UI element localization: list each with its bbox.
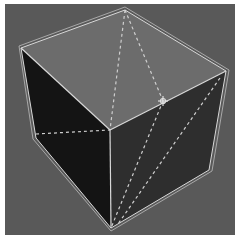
cube-scene: [5, 4, 235, 235]
3d-viewport[interactable]: [5, 4, 235, 235]
